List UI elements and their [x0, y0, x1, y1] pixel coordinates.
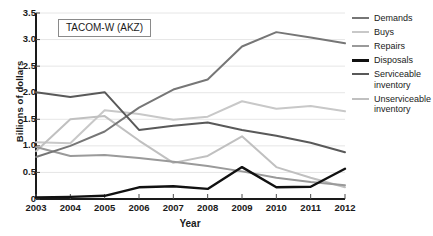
- series-line-repairs: [36, 147, 345, 185]
- legend-item-label: Serviceable inventory: [374, 69, 433, 90]
- legend-swatch-icon: [352, 31, 369, 33]
- legend-item-label: Buys: [374, 27, 394, 38]
- line-chart: Billions of dollars 00.51.01.52.02.53.03…: [0, 0, 433, 236]
- legend-item-label: Unserviceable inventory: [374, 94, 433, 115]
- legend-swatch-icon: [352, 17, 369, 19]
- legend-item: Serviceable inventory: [352, 69, 433, 90]
- series-line-buys: [36, 101, 345, 143]
- x-axis-title: Year: [35, 218, 345, 229]
- legend-swatch-icon: [352, 59, 369, 62]
- legend-swatch-icon: [352, 73, 369, 75]
- legend-item-label: Repairs: [374, 41, 405, 52]
- legend-item-label: Demands: [374, 13, 413, 24]
- legend-swatch-icon: [352, 98, 369, 100]
- legend-item-label: Disposals: [374, 55, 413, 66]
- legend-item: Buys: [352, 27, 433, 38]
- series-line-disposals: [36, 167, 345, 197]
- legend-item: Disposals: [352, 55, 433, 66]
- legend: DemandsBuysRepairsDisposalsServiceable i…: [352, 13, 433, 118]
- series-line-unserviceable-inventory: [36, 116, 345, 187]
- legend-item: Demands: [352, 13, 433, 24]
- chart-annotation-label: TACOM-W (AKZ): [58, 19, 151, 37]
- legend-item: Unserviceable inventory: [352, 94, 433, 115]
- legend-item: Repairs: [352, 41, 433, 52]
- x-tick-label: 2012: [325, 202, 365, 213]
- series-line-serviceable-inventory: [36, 92, 345, 152]
- legend-swatch-icon: [352, 45, 369, 47]
